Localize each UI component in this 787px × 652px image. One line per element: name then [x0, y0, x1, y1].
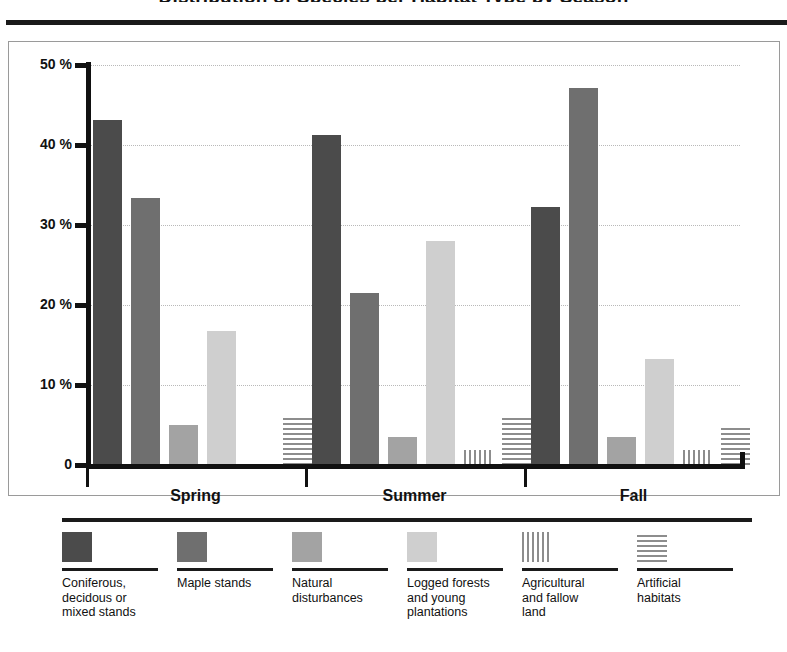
- legend-items: Coniferous, decidous or mixed standsMapl…: [62, 532, 752, 620]
- x-axis-right-cap: [740, 452, 745, 469]
- legend-swatch-horizontal-stripes-icon: [637, 532, 667, 562]
- bar-fall-series-6: [721, 425, 750, 465]
- legend-divider: [62, 518, 752, 522]
- x-axis-label-spring: Spring: [86, 487, 305, 505]
- bar-fall-series-5: [683, 450, 712, 465]
- legend-swatch-solid-dark-gray-icon: [62, 532, 92, 562]
- group-separator-summer: [305, 469, 308, 487]
- bar-summer-series-6: [502, 415, 531, 465]
- legend-swatch-solid-medium-gray-icon: [177, 532, 207, 562]
- legend-label-text: Logged forests and young plantations: [407, 576, 511, 620]
- legend-item-6[interactable]: Artificial habitats: [637, 532, 752, 620]
- bar-spring-series-4: [207, 331, 236, 465]
- legend-item-5[interactable]: Agricultural and fallow land: [522, 532, 637, 620]
- legend-label-text: Agricultural and fallow land: [522, 576, 626, 620]
- legend-swatch-solid-light-gray-icon: [407, 532, 437, 562]
- legend-swatch-solid-gray-icon: [292, 532, 322, 562]
- bar-fall-series-2: [569, 88, 598, 465]
- bar-spring-series-1: [93, 120, 122, 465]
- legend-label-text: Maple stands: [177, 576, 281, 591]
- bar-fall-series-1: [531, 207, 560, 465]
- legend-label-text: Artificial habitats: [637, 576, 741, 605]
- x-axis-label-fall: Fall: [524, 487, 743, 505]
- legend-underline: [637, 568, 733, 571]
- legend-underline: [522, 568, 618, 571]
- legend-swatch-vertical-stripes-icon: [522, 532, 552, 562]
- legend-item-2[interactable]: Maple stands: [177, 532, 292, 620]
- legend-item-3[interactable]: Natural disturbances: [292, 532, 407, 620]
- x-axis-line: [86, 464, 745, 469]
- bar-fall-series-3: [607, 437, 636, 465]
- bar-summer-series-3: [388, 437, 417, 465]
- bar-summer-series-1: [312, 135, 341, 465]
- bars-layer: [0, 0, 787, 465]
- legend-underline: [407, 568, 503, 571]
- bar-spring-series-6: [283, 415, 312, 465]
- bar-fall-series-4: [645, 359, 674, 465]
- bar-summer-series-4: [426, 241, 455, 465]
- chart-figure: Distribution of Species per Habitat Type…: [0, 0, 787, 652]
- bar-summer-series-2: [350, 293, 379, 465]
- legend-label-text: Coniferous, decidous or mixed stands: [62, 576, 166, 620]
- x-axis-label-summer: Summer: [305, 487, 524, 505]
- bar-spring-series-2: [131, 198, 160, 465]
- legend-underline: [177, 568, 273, 571]
- bar-summer-series-5: [464, 450, 493, 465]
- legend-underline: [292, 568, 388, 571]
- group-separator-fall: [524, 469, 527, 487]
- bar-spring-series-3: [169, 425, 198, 465]
- legend-item-4[interactable]: Logged forests and young plantations: [407, 532, 522, 620]
- legend-underline: [62, 568, 158, 571]
- group-separator-spring: [86, 469, 89, 487]
- legend-item-1[interactable]: Coniferous, decidous or mixed stands: [62, 532, 177, 620]
- legend-label-text: Natural disturbances: [292, 576, 396, 605]
- legend: Coniferous, decidous or mixed standsMapl…: [62, 518, 752, 646]
